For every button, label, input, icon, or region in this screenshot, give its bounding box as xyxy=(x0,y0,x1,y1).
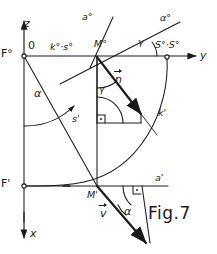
point-marker-f-top xyxy=(22,54,26,58)
point-label-m-top: M° xyxy=(94,39,107,49)
curve-label-k-s-top: k°·s° xyxy=(50,42,73,52)
upper-right-angle-dot xyxy=(100,118,102,120)
axis-x-label: x xyxy=(30,228,37,239)
curve-label-k-front: k' xyxy=(158,108,166,118)
axis-y-label: y xyxy=(200,50,207,61)
axis-z-label: z xyxy=(24,18,30,29)
lower-right-angle-dot xyxy=(136,189,138,191)
curve-label-a-top: a° xyxy=(82,12,93,22)
angle-label-gamma-top-right: γ xyxy=(138,37,144,47)
curve-label-alpha-top: α° xyxy=(160,13,171,23)
angle-label-alpha-lower: α xyxy=(124,206,131,217)
curve-s-front-line xyxy=(24,56,97,186)
point-label-f-top: F° xyxy=(1,48,13,59)
point-marker-f-bottom xyxy=(22,184,26,188)
figure-caption: Fig.7 xyxy=(148,205,191,222)
origin-label: 0 xyxy=(28,40,35,51)
angle-label-alpha-upper: α xyxy=(34,88,41,99)
angle-label-gamma-upper: γ xyxy=(99,84,105,94)
curve-label-s-front: s' xyxy=(72,114,80,124)
figure-canvas: z x y F° 0 k°·s° M° S°·S° a° α° γ α γ n … xyxy=(0,0,217,254)
curve-k-front-arc xyxy=(24,58,167,186)
point-label-s-top: S°·S° xyxy=(155,40,180,50)
vector-label-n: n xyxy=(115,74,122,85)
alpha-upper-arc xyxy=(24,106,74,126)
point-label-m-bottom: M' xyxy=(87,190,98,200)
point-label-f-bottom: F' xyxy=(1,178,10,189)
point-marker-s-top xyxy=(165,55,169,59)
vector-n-text: n xyxy=(115,74,122,85)
curve-label-a-front: a' xyxy=(155,173,163,183)
vector-v-text: v xyxy=(100,208,107,219)
vector-label-v: v xyxy=(100,208,107,219)
lower-angle-arc-large xyxy=(123,186,131,205)
